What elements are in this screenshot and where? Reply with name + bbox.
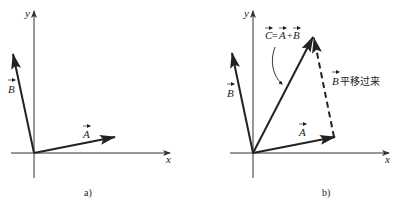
panel-b: y x B A C = A + B B 平移过来 bbox=[227, 7, 390, 199]
x-axis-label: x bbox=[384, 153, 390, 165]
translated-b-label: B 平移过来 bbox=[332, 72, 380, 87]
y-axis-label: y bbox=[243, 7, 249, 19]
vector-a-arrow bbox=[34, 137, 115, 153]
vector-b-arrow bbox=[232, 53, 253, 153]
vector-addition-diagram: y x B A a) y x B A bbox=[0, 0, 401, 206]
svg-text:A: A bbox=[298, 126, 306, 138]
vector-a-arrow bbox=[253, 137, 335, 153]
vector-b-label: B bbox=[227, 84, 234, 99]
svg-text:B: B bbox=[8, 83, 15, 95]
vector-b-label: B bbox=[8, 80, 15, 95]
pointer-curve bbox=[272, 47, 282, 84]
translated-b-dashed-arrow bbox=[314, 38, 334, 137]
vector-b-arrow bbox=[13, 54, 34, 153]
svg-text:B: B bbox=[227, 87, 234, 99]
svg-text:A: A bbox=[82, 128, 90, 140]
sum-equation-label: C = A + B bbox=[265, 28, 300, 41]
panel-a: y x B A a) bbox=[8, 7, 171, 199]
svg-text:B: B bbox=[293, 29, 300, 41]
svg-text:B: B bbox=[332, 75, 339, 87]
panel-a-caption: a) bbox=[84, 187, 92, 199]
vector-a-label: A bbox=[82, 126, 90, 140]
x-axis-label: x bbox=[165, 153, 171, 165]
svg-text:=: = bbox=[272, 30, 278, 41]
panel-b-caption: b) bbox=[322, 187, 330, 199]
svg-text:A: A bbox=[278, 29, 286, 41]
vector-a-label: A bbox=[298, 124, 306, 138]
y-axis-label: y bbox=[24, 7, 30, 19]
svg-text:平移过来: 平移过来 bbox=[340, 75, 380, 87]
